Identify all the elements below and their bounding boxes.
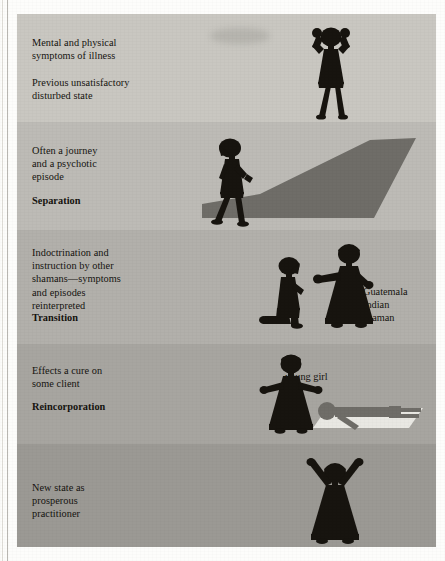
guatemala-shaman-figure [309, 238, 389, 338]
band-illness: Mental and physical symptoms of illness … [17, 14, 436, 122]
band-separation: Often a journey and a psychotic episode … [17, 122, 436, 230]
band-reincorporation-stage-label: Reincorporation [32, 400, 105, 413]
band-reincorporation-text: Effects a cure on some client [32, 364, 202, 390]
arms-raised-figure [295, 456, 375, 547]
band-new-state-text: New state as prosperous practitioner [32, 481, 192, 521]
walking-figure [203, 134, 273, 228]
page-edge-rule-outer [2, 0, 3, 561]
page-edge-rule [7, 0, 8, 561]
band-illness-text: Mental and physical symptoms of illness … [32, 36, 212, 102]
band-transition-text: Indoctrination and instruction by other … [32, 246, 207, 312]
scanned-page: Mental and physical symptoms of illness … [0, 0, 445, 561]
shamanic-career-diagram: Mental and physical symptoms of illness … [17, 14, 436, 547]
band-separation-stage-label: Separation [32, 194, 81, 207]
hands-on-head-figure [295, 22, 367, 120]
band-reincorporation: Effects a cure on some client Reincorpor… [17, 344, 436, 444]
reclining-patient-group [305, 388, 427, 434]
band-transition: Indoctrination and instruction by other … [17, 230, 436, 344]
band-new-state: New state as prosperous practitioner [17, 444, 436, 547]
band-transition-stage-label: Transition [32, 311, 78, 324]
